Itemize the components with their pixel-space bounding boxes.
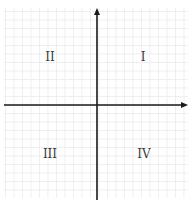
quadrant-label-i: I: [141, 51, 146, 63]
quadrant-label-ii: II: [45, 51, 54, 63]
axes: [0, 0, 193, 204]
x-axis-arrow-icon: [181, 102, 188, 108]
coordinate-plane: II I III IV: [0, 0, 193, 204]
quadrant-label-iv: IV: [137, 148, 150, 160]
y-axis-arrow-icon: [94, 8, 100, 15]
quadrant-label-iii: III: [43, 148, 57, 160]
